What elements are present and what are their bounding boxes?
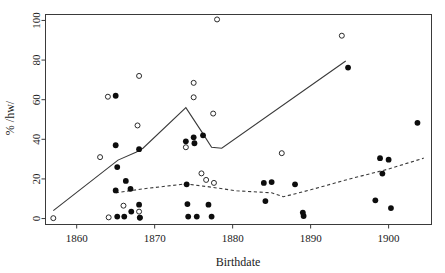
data-point-filled: [185, 214, 191, 220]
data-point-filled: [388, 205, 394, 211]
data-point-filled: [206, 202, 212, 208]
data-point-open: [215, 17, 220, 22]
data-point-open: [279, 151, 284, 156]
data-point-filled: [114, 214, 120, 220]
data-point-filled: [128, 186, 134, 192]
data-point-open: [183, 145, 188, 150]
data-point-filled: [301, 213, 307, 219]
scatter-plot: 020406080100 18601870188018901900 Birthd…: [0, 0, 445, 273]
data-point-filled: [192, 140, 198, 146]
y-tick-label: 100: [30, 12, 42, 29]
x-tick-label: 1880: [222, 232, 245, 244]
y-tick-label: 0: [30, 215, 42, 221]
data-point-filled: [184, 181, 190, 187]
data-point-open: [211, 180, 216, 185]
data-point-open: [98, 155, 103, 160]
data-point-open: [211, 111, 216, 116]
data-point-open: [191, 95, 196, 100]
data-point-filled: [209, 214, 215, 220]
data-point-filled: [200, 132, 206, 138]
data-point-filled: [263, 198, 269, 204]
data-point-open: [137, 73, 142, 78]
y-tick-label: 80: [30, 54, 42, 66]
data-point-filled: [113, 188, 119, 194]
data-point-filled: [372, 197, 378, 203]
data-point-filled: [123, 178, 129, 184]
data-point-open: [121, 203, 126, 208]
data-point-filled: [345, 65, 351, 71]
x-tick-label: 1900: [378, 232, 401, 244]
data-point-filled: [415, 120, 421, 126]
data-point-filled: [269, 179, 275, 185]
x-axis-title: Birthdate: [216, 255, 261, 269]
data-point-filled: [386, 157, 392, 163]
data-point-filled: [261, 180, 267, 186]
data-point-filled: [185, 201, 191, 207]
data-point-filled: [136, 146, 142, 152]
data-point-filled: [191, 134, 197, 140]
y-axis-title: % /hw/: [3, 100, 17, 135]
data-point-filled: [194, 214, 200, 220]
data-point-filled: [121, 214, 127, 220]
data-point-filled: [292, 181, 298, 187]
data-point-filled: [379, 171, 385, 177]
y-tick-label: 40: [30, 133, 42, 145]
x-tick-label: 1860: [66, 232, 89, 244]
x-tick-label: 1870: [144, 232, 167, 244]
data-point-open: [105, 94, 110, 99]
data-point-open: [191, 80, 196, 85]
data-point-open: [106, 215, 111, 220]
data-point-open: [199, 171, 204, 176]
y-tick-label: 60: [30, 94, 42, 106]
data-point-open: [51, 216, 56, 221]
data-point-filled: [114, 164, 120, 170]
data-point-filled: [113, 93, 119, 99]
data-point-open: [339, 33, 344, 38]
data-point-filled: [183, 138, 189, 144]
x-tick-label: 1890: [300, 232, 323, 244]
data-point-open: [135, 123, 140, 128]
y-tick-label: 20: [30, 173, 42, 185]
data-point-filled: [136, 202, 142, 208]
data-point-open: [137, 209, 142, 214]
data-point-filled: [113, 142, 119, 148]
data-point-filled: [137, 215, 143, 221]
chart-figure: 020406080100 18601870188018901900 Birthd…: [0, 0, 445, 273]
data-point-filled: [377, 155, 383, 161]
data-point-filled: [128, 209, 134, 215]
data-point-open: [204, 177, 209, 182]
